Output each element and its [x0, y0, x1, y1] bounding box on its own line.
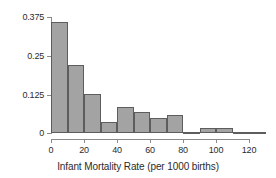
y-tick-label-0: 0 [5, 128, 44, 138]
histogram-bar [216, 128, 233, 133]
histogram-plot: 0.375 0.25 0.125 0 0 20 40 60 80 [0, 0, 276, 178]
y-tick-mark-0.375 [47, 17, 51, 18]
histogram-bar [68, 65, 84, 133]
x-tick-label-80: 80 [168, 145, 198, 155]
x-tick-mark-100 [216, 139, 217, 143]
x-tick-label-40: 40 [102, 145, 132, 155]
x-tick-label-20: 20 [69, 145, 99, 155]
histogram-bar [167, 115, 183, 133]
histogram-bar [84, 94, 101, 133]
x-tick-mark-20 [84, 139, 85, 143]
x-tick-mark-40 [117, 139, 118, 143]
chart-page: 0.375 0.25 0.125 0 0 20 40 60 80 [0, 0, 276, 178]
y-tick-mark-0 [47, 133, 51, 134]
histogram-bar [200, 128, 216, 133]
x-tick-mark-120 [249, 139, 250, 143]
histogram-bar [233, 132, 249, 134]
histogram-bar [134, 112, 150, 133]
histogram-bar [249, 132, 266, 134]
x-tick-label-120: 120 [234, 145, 264, 155]
y-tick-label-0.375: 0.375 [5, 12, 44, 22]
x-tick-label-100: 100 [201, 145, 231, 155]
y-tick-label-0.25: 0.25 [5, 51, 44, 61]
histogram-bar [51, 22, 68, 134]
x-axis-title: Infant Mortality Rate (per 1000 births) [0, 161, 276, 172]
x-tick-label-0: 0 [36, 145, 66, 155]
x-tick-mark-80 [183, 139, 184, 143]
x-tick-mark-60 [150, 139, 151, 143]
x-tick-mark-0 [51, 139, 52, 143]
histogram-bar [183, 132, 200, 134]
histogram-bar [150, 118, 167, 133]
histogram-bar [117, 107, 134, 133]
x-tick-label-60: 60 [135, 145, 165, 155]
y-tick-label-0.125: 0.125 [5, 90, 44, 100]
histogram-bar [101, 122, 117, 133]
